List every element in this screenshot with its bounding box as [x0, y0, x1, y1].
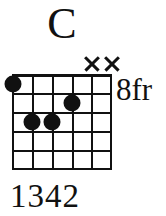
- string-line-5: [91, 74, 93, 170]
- string-line-4: [72, 74, 74, 170]
- fret-line-top: [12, 74, 112, 77]
- finger-dot-string-4-fret-2: [64, 95, 81, 112]
- finger-dot-string-2-fret-3: [24, 114, 41, 131]
- mute-x-icon-string-6: [104, 56, 121, 73]
- fret-line-1: [12, 93, 112, 95]
- fret-line-5: [12, 168, 112, 170]
- fingering-numbers-label: 1342: [10, 180, 120, 213]
- chord-diagram-card: C 8fr 1342: [0, 0, 166, 216]
- chord-name-label: C: [0, 2, 124, 46]
- fretboard-grid: [12, 74, 112, 170]
- mute-x-icon-string-5: [84, 56, 101, 73]
- string-line-6: [110, 74, 112, 170]
- fret-line-4: [12, 150, 112, 152]
- finger-dot-string-1-fret-1: [5, 76, 22, 93]
- finger-dot-string-3-fret-3: [44, 114, 61, 131]
- fret-position-label: 8fr: [116, 74, 152, 105]
- fret-line-3: [12, 131, 112, 133]
